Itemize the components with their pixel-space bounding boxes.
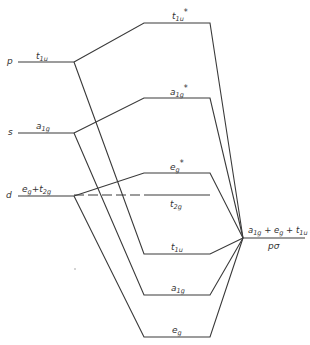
antibonding-star: * [184, 8, 188, 17]
a1g-star-label: a1g* [170, 85, 188, 99]
sym-sub-1g: 1g [253, 229, 261, 237]
plus-sign: + [286, 225, 293, 235]
sym-sub: 1u [176, 15, 184, 23]
sym-sub: 1u [40, 55, 48, 63]
metal-d-label: d [6, 191, 12, 200]
metal-p-label: p [7, 57, 13, 66]
plus-sign: + [264, 225, 271, 235]
sym-sub-g: g [279, 229, 283, 237]
a1g-star-level [74, 98, 243, 238]
metal-p-symmetry-label: t1u [36, 52, 48, 63]
eg-star-level [74, 173, 243, 238]
sym-sub: 1u [175, 246, 183, 254]
ligand-psigma-label: pσ [268, 242, 279, 251]
sym-sub: g [178, 329, 182, 337]
sym-sub: 1g [177, 287, 185, 295]
sym-sub-1u: 1u [299, 229, 307, 237]
ligand-symmetry-label: a1g + eg + t1u [248, 226, 308, 237]
metal-s-symmetry-label: a1g [36, 122, 50, 133]
metal-d-symmetry-label: eg+t2g [22, 185, 51, 196]
sym-sub: 2g [174, 203, 182, 211]
antibonding-star: * [184, 84, 188, 93]
eg-bonding-label: eg [172, 326, 182, 337]
stray-dot [74, 268, 75, 269]
a1g-bonding-label: a1g [171, 284, 185, 295]
metal-s-label: s [8, 128, 13, 137]
sym-sub: 1g [176, 91, 184, 99]
sym-sub: 1g [42, 125, 50, 133]
t1u-star-label: t1u* [172, 9, 188, 23]
a1g-bonding-level [74, 133, 243, 295]
antibonding-star: * [180, 159, 184, 168]
t2g-label: t2g [170, 200, 182, 211]
sym-sub-2g: 2g [43, 188, 51, 196]
t1u-bonding-label: t1u [171, 243, 183, 254]
eg-bonding-level [74, 196, 243, 337]
eg-star-label: eg* [170, 160, 184, 174]
t1u-bonding-level [74, 62, 243, 254]
